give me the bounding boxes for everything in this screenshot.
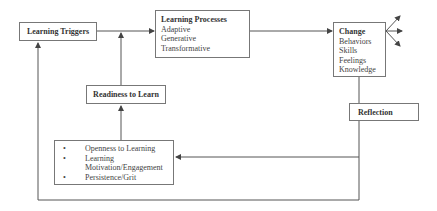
- reflection-label: Reflection: [358, 108, 393, 117]
- change-item: Feelings: [339, 56, 380, 66]
- change-item: Knowledge: [339, 65, 380, 75]
- change-item: Behaviors: [339, 37, 380, 47]
- readiness-label: Readiness to Learn: [93, 90, 159, 100]
- readiness-factors-list: Openness to Learning Learning Motivation…: [57, 144, 171, 182]
- process-item: Adaptive: [161, 25, 244, 35]
- learning-triggers-label: Learning Triggers: [27, 27, 89, 37]
- process-item: Transformative: [161, 44, 244, 54]
- reflection-box: Reflection: [349, 103, 419, 121]
- process-item: Generative: [161, 34, 244, 44]
- readiness-box: Readiness to Learn: [86, 85, 166, 104]
- factor-item: Learning Motivation/Engagement: [57, 154, 171, 173]
- learning-processes-title: Learning Processes: [161, 15, 244, 25]
- learning-triggers-box: Learning Triggers: [19, 22, 97, 41]
- readiness-factors-box: Openness to Learning Learning Motivation…: [54, 140, 174, 185]
- change-box: Change Behaviors Skills Feelings Knowled…: [333, 22, 386, 77]
- factor-item: Openness to Learning: [57, 144, 171, 154]
- learning-processes-box: Learning Processes Adaptive Generative T…: [155, 10, 250, 58]
- change-title: Change: [339, 27, 380, 37]
- factor-item: Persistence/Grit: [57, 173, 171, 183]
- change-item: Skills: [339, 46, 380, 56]
